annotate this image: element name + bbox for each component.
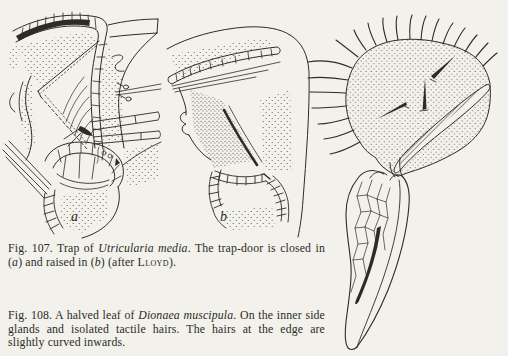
petiole-dark-fold	[355, 226, 381, 304]
species-name: Utricularia media	[98, 241, 187, 255]
author-name: Lloyd	[138, 255, 169, 269]
stipple-texture	[170, 38, 293, 230]
fig107-panel-a-label: a	[71, 210, 78, 224]
caption-text: ).	[169, 255, 176, 269]
fig107-drawing-a-utricularia-trap-closed	[0, 0, 162, 240]
fig107-panel-b-label: b	[220, 210, 227, 224]
caption-text: Fig. 107. Trap of	[8, 241, 98, 255]
fig108-caption: Fig. 108. A halved leaf of Dionaea musci…	[8, 309, 325, 350]
lower-cell-arm	[44, 190, 63, 234]
fig107-caption: Fig. 107. Trap of Utricularia media. The…	[8, 242, 325, 269]
species-name: Dionaea muscipula	[138, 308, 233, 322]
caption-text: ) and raised in (	[18, 255, 95, 269]
fig108-drawing-dionaea-halved-leaf	[300, 0, 508, 356]
book-page: a b Fig. 107. Trap of Utricularia media.…	[0, 0, 508, 356]
caption-text: Fig. 108. A halved leaf of	[8, 308, 138, 322]
fig107-drawing-b-utricularia-trap-open	[160, 0, 312, 240]
caption-text: ) (after	[101, 255, 138, 269]
threshold-cells	[45, 142, 123, 189]
